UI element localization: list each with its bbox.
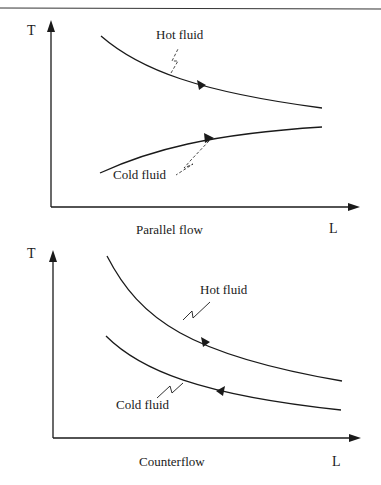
- parallel-t-label: T: [27, 24, 36, 38]
- parallel-cold-label: Cold fluid: [113, 168, 166, 181]
- parallel-caption: Parallel flow: [136, 223, 203, 236]
- hot-fluid-curve: [101, 36, 322, 108]
- hot-label-leader: [183, 302, 210, 320]
- hot-label-leader: [171, 49, 178, 73]
- counterflow-panel: [49, 250, 361, 442]
- page-rule: [0, 8, 381, 9]
- t-axis-arrow-icon: [47, 20, 55, 32]
- l-axis-arrow-icon: [349, 434, 361, 442]
- counter-t-label: T: [27, 247, 36, 261]
- heat-exchanger-diagram: [0, 0, 381, 485]
- parallel-l-label: L: [329, 222, 338, 236]
- parallel-hot-label: Hot fluid: [156, 28, 203, 41]
- l-axis-arrow-icon: [348, 203, 360, 211]
- counter-cold-label: Cold fluid: [116, 398, 169, 411]
- cold-label-leader: [157, 383, 183, 398]
- counter-hot-label: Hot fluid: [200, 283, 247, 296]
- t-axis-arrow-icon: [49, 250, 57, 262]
- counter-caption: Counterflow: [139, 455, 205, 468]
- cold-flow-arrow-icon: [216, 386, 225, 396]
- counter-l-label: L: [332, 455, 341, 469]
- hot-flow-arrow-icon: [197, 80, 206, 90]
- parallel-flow-panel: [47, 20, 360, 211]
